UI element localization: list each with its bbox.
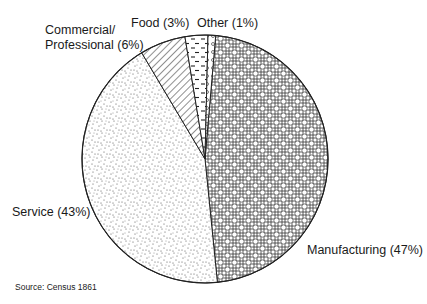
- label-commercial-line1: Commercial/: [45, 23, 144, 38]
- label-other: Other (1%): [197, 16, 258, 31]
- label-manufacturing: Manufacturing (47%): [307, 243, 423, 258]
- label-service: Service (43%): [12, 205, 91, 220]
- source-note: Source: Census 1861: [15, 282, 97, 292]
- label-commercial-line2: Professional (6%): [45, 38, 144, 53]
- label-food: Food (3%): [131, 16, 189, 31]
- pie-slices: [82, 35, 328, 283]
- label-commercial-professional: Commercial/ Professional (6%): [45, 23, 144, 53]
